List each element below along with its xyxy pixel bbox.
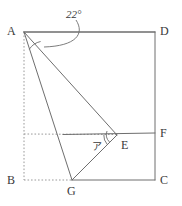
vertex-label-A: A — [7, 25, 16, 37]
vertex-label-G: G — [67, 185, 76, 197]
vertex-label-B: B — [7, 174, 15, 186]
angle-label-unknown-a: ア — [92, 142, 102, 152]
segment-AE — [24, 32, 117, 135]
dotted-lines — [24, 32, 117, 180]
vertex-label-D: D — [160, 25, 169, 37]
vertex-label-C: C — [160, 174, 168, 186]
vertex-label-F: F — [160, 127, 167, 139]
angle-label-22-degrees: 22° — [66, 9, 81, 20]
figure-canvas — [0, 0, 182, 206]
geometry-figure: A D B C F E G 22° ア — [0, 0, 182, 206]
vertex-label-E: E — [121, 139, 128, 151]
angle-leader-line-22 — [44, 20, 79, 47]
solid-lines — [24, 32, 155, 180]
angle-arc-at-E — [104, 131, 110, 145]
segment-GA — [24, 32, 72, 180]
